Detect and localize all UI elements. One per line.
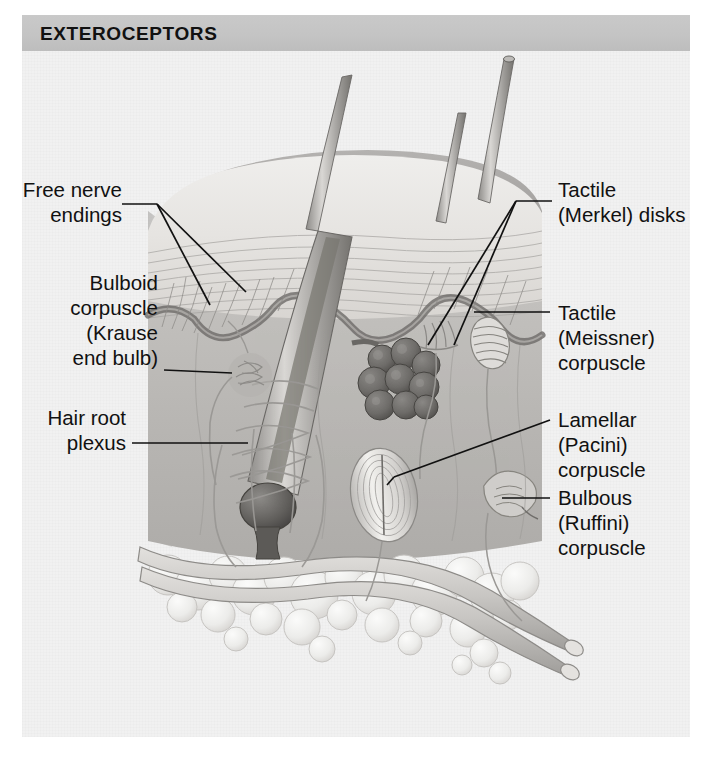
label-tactile-meissner-corpuscle: Tactile (Meissner) corpuscle: [558, 300, 690, 375]
leader-lines: [22, 15, 690, 737]
label-bulbous-ruffini-corpuscle: Bulbous (Ruffini) corpuscle: [558, 485, 690, 560]
figure-panel: EXTEROCEPTORS Free nerve endings Bulboid…: [22, 15, 690, 737]
label-free-nerve-endings: Free nerve endings: [22, 177, 122, 227]
label-lamellar-pacini-corpuscle: Lamellar (Pacini) corpuscle: [558, 407, 690, 482]
label-tactile-merkel-disks: Tactile (Merkel) disks: [558, 177, 690, 227]
label-hair-root-plexus: Hair root plexus: [22, 405, 126, 455]
figure-title-banner: EXTEROCEPTORS: [22, 15, 690, 51]
figure-title: EXTEROCEPTORS: [40, 23, 217, 45]
label-bulboid-corpuscle: Bulboid corpuscle (Krause end bulb): [22, 270, 158, 370]
